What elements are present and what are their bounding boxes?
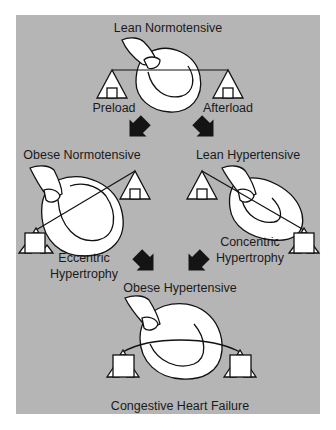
label-afterload: Afterload bbox=[203, 101, 253, 115]
caption-congestive-heart-failure: Congestive Heart Failure bbox=[111, 399, 249, 413]
title-obese-normotensive: Obese Normotensive bbox=[23, 148, 140, 162]
title-lean-hypertensive: Lean Hypertensive bbox=[196, 148, 300, 162]
caption-concentric-hypertrophy: Hypertrophy bbox=[216, 251, 285, 265]
caption-concentric: Concentric bbox=[220, 235, 280, 249]
caption-eccentric-hypertrophy: Hypertrophy bbox=[50, 267, 119, 281]
label-preload: Preload bbox=[92, 101, 135, 115]
caption-eccentric: Eccentric bbox=[58, 251, 109, 265]
heart-failure-diagram: Lean Normotensive Preload Afterload Obes… bbox=[0, 0, 336, 430]
title-obese-hypertensive: Obese Hypertensive bbox=[123, 281, 236, 295]
title-lean-normotensive: Lean Normotensive bbox=[114, 21, 222, 35]
